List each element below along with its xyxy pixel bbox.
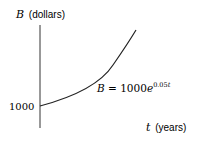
x-axis-label: t (years) (146, 121, 186, 134)
growth-curve (40, 30, 136, 106)
exponential-growth-chart: B (dollars) 1000 B = 1000e0.05t t (years… (0, 0, 197, 142)
y-tick-label-1000: 1000 (9, 101, 34, 112)
y-axis-label: B (dollars) (15, 8, 65, 21)
curve-equation: B = 1000e0.05t (96, 81, 171, 94)
